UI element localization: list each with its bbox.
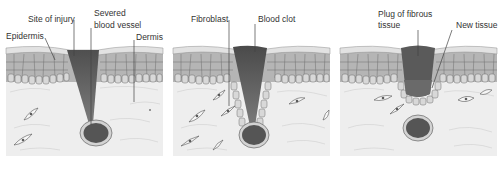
label-epidermis: Epidermis — [6, 32, 44, 41]
label-site-of-injury: Site of injury — [28, 15, 75, 24]
label-plug-line2: tissue — [378, 21, 400, 30]
label-fibroblast: Fibroblast — [191, 15, 228, 24]
label-severed-line2: blood vessel — [94, 21, 141, 30]
panel-blood-clot: Fibroblast Blood clot — [167, 0, 335, 169]
skin-cross-section-injury — [0, 0, 168, 169]
label-new-tissue: New tissue — [456, 21, 498, 30]
label-severed-line1: Severed — [94, 9, 126, 18]
new-tissue — [404, 80, 432, 97]
label-dermis: Dermis — [136, 33, 163, 42]
panel-site-of-injury: Site of injury Severed blood vessel Epid… — [0, 0, 168, 169]
label-plug-line1: Plug of fibrous — [378, 10, 432, 19]
label-blood-clot: Blood clot — [258, 15, 295, 24]
skin-cross-section-clot — [167, 0, 335, 169]
panel-new-tissue: Plug of fibrous tissue New tissue — [334, 0, 502, 169]
